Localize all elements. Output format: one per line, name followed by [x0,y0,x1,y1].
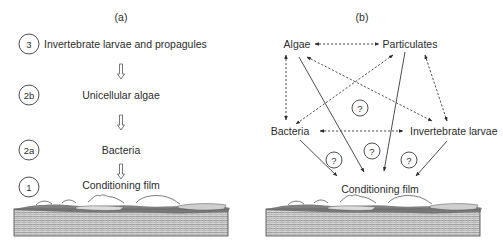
stage-number: 2b [24,90,35,101]
panel-a: (a) 3 Invertebrate larvae and propagules… [14,11,230,236]
stage-number: 3 [26,39,31,50]
unknown-marker: ? [364,143,380,159]
panel-a-label: (a) [115,11,128,23]
stage-number: 2a [24,145,35,156]
svg-text:?: ? [406,155,411,166]
node-algae: Algae [284,38,311,50]
link-particulates-film [384,52,405,171]
stage-2b: 2b Unicellular algae [19,85,160,105]
stage-label: Conditioning film [82,179,160,191]
link-particulates-bacteria [296,55,393,124]
hollow-down-arrow-icon [118,115,125,130]
stage-3: 3 Invertebrate larvae and propagules [19,34,207,54]
node-particulates: Particulates [383,38,438,50]
unknown-marker: ? [401,152,417,168]
link-invertebrate-film [416,141,447,176]
hollow-down-arrow-icon [118,164,125,179]
link-particulates-invertebrate [425,55,447,121]
panel-b-label: (b) [356,11,369,23]
stage-1: 1 Conditioning film [19,177,160,197]
node-bacteria: Bacteria [271,125,310,137]
panel-b: (b) Algae Particulates Bacteria Inverteb… [266,11,498,236]
substrate-icon [14,195,230,236]
stage-number: 1 [26,182,31,193]
unknown-marker: ? [352,100,368,116]
svg-text:?: ? [369,146,374,157]
node-invertebrate-larvae: Invertebrate larvae [410,125,498,137]
stage-label: Unicellular algae [82,89,160,101]
diagram-canvas: (a) 3 Invertebrate larvae and propagules… [0,0,503,243]
hollow-down-arrow-icon [118,64,125,79]
unknown-marker: ? [326,152,342,168]
stage-2a: 2a Bacteria [19,140,140,160]
link-algae-invertebrate [307,57,432,121]
svg-text:?: ? [357,103,362,114]
stage-label: Invertebrate larvae and propagules [44,38,207,50]
svg-text:?: ? [331,155,336,166]
node-conditioning-film: Conditioning film [341,183,419,195]
substrate-icon [266,195,482,236]
stage-label: Bacteria [102,144,141,156]
